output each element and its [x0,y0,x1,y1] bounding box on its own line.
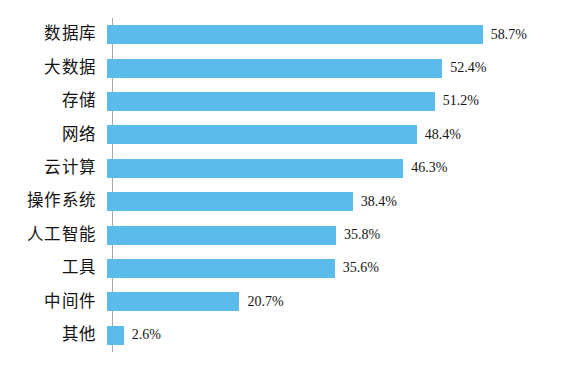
bar-row: 大数据52.4% [0,51,582,84]
bar-value-label: 20.7% [247,295,283,309]
category-label: 操作系统 [0,193,104,210]
bar-track: 2.6% [104,319,582,352]
category-label: 其他 [0,327,104,344]
bar-value-label: 51.2% [443,94,479,108]
bar-row: 数据库58.7% [0,18,582,51]
bar-row: 其他2.6% [0,319,582,352]
bar-track: 20.7% [104,285,582,318]
bar [107,25,483,44]
bar-chart: 数据库58.7%大数据52.4%存储51.2%网络48.4%云计算46.3%操作… [0,0,582,377]
category-label: 云计算 [0,160,104,177]
bar-track: 58.7% [104,18,582,51]
bar [107,259,335,278]
category-label: 中间件 [0,294,104,311]
bar-value-label: 58.7% [491,28,527,42]
bar-track: 38.4% [104,185,582,218]
category-label: 工具 [0,260,104,277]
bar-track: 52.4% [104,51,582,84]
bar-row: 工具35.6% [0,252,582,285]
bar-row: 存储51.2% [0,85,582,118]
bar [107,159,403,178]
bar-row: 操作系统38.4% [0,185,582,218]
bar-value-label: 35.8% [344,228,380,242]
bar [107,326,124,345]
bar [107,59,442,78]
category-label: 网络 [0,127,104,144]
bar [107,226,336,245]
bar [107,192,353,211]
category-label: 人工智能 [0,227,104,244]
bar [107,292,239,311]
plot-area: 数据库58.7%大数据52.4%存储51.2%网络48.4%云计算46.3%操作… [0,18,582,352]
bar-value-label: 38.4% [361,195,397,209]
bar-track: 48.4% [104,118,582,151]
bar-track: 35.6% [104,252,582,285]
bar-row: 人工智能35.8% [0,218,582,251]
bar-row: 网络48.4% [0,118,582,151]
bar-track: 35.8% [104,218,582,251]
category-label: 存储 [0,93,104,110]
bar [107,125,417,144]
category-label: 数据库 [0,26,104,43]
category-label: 大数据 [0,60,104,77]
bar-row: 云计算46.3% [0,152,582,185]
bar-track: 51.2% [104,85,582,118]
bar-row: 中间件20.7% [0,285,582,318]
bar-value-label: 48.4% [425,128,461,142]
bar-value-label: 46.3% [411,161,447,175]
bar-value-label: 52.4% [450,61,486,75]
bar-value-label: 2.6% [132,328,161,342]
bar-value-label: 35.6% [343,261,379,275]
bar [107,92,435,111]
bar-track: 46.3% [104,152,582,185]
